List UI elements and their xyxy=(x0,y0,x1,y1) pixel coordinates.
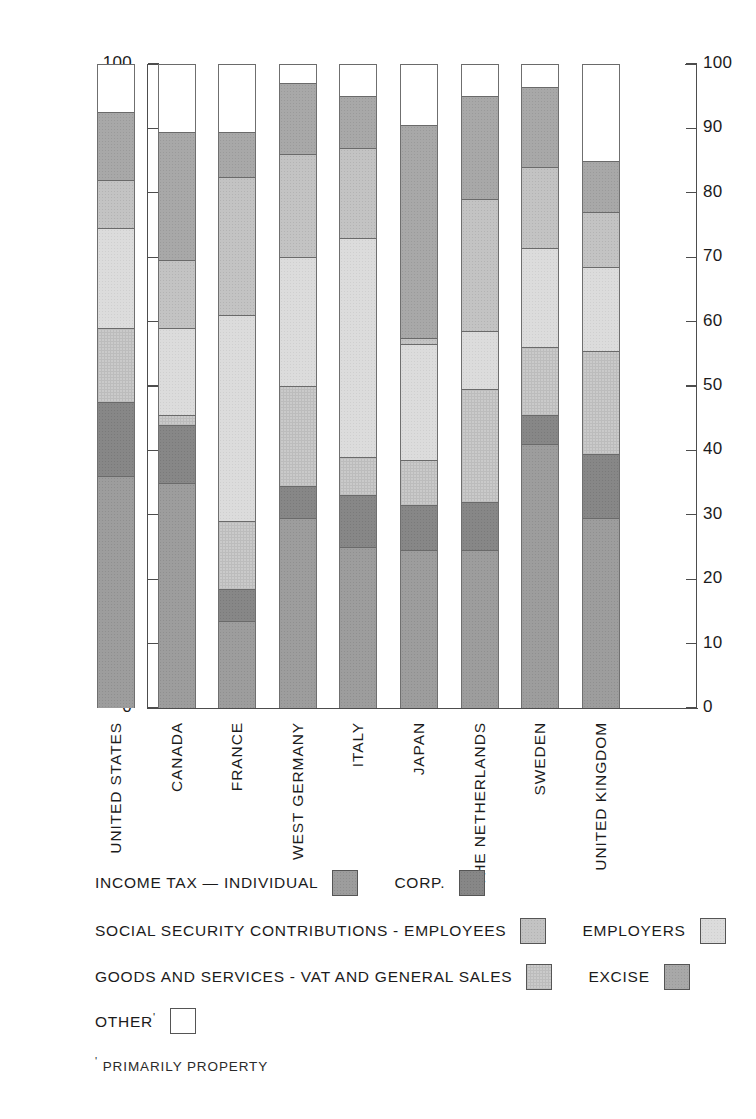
x-axis-label-japan: JAPAN xyxy=(410,722,428,775)
bar-segment-ss_employers xyxy=(98,228,134,328)
bar-segment-excise xyxy=(522,87,558,168)
bar-segment-corp xyxy=(219,589,255,621)
y-tick-right xyxy=(686,385,697,386)
bar-segment-other xyxy=(401,64,437,125)
legend-swatch-ss_employees[interactable] xyxy=(520,918,546,944)
bar-segment-ss_employees xyxy=(219,177,255,315)
bar-segment-vat xyxy=(340,457,376,496)
bar-segment-ss_employees xyxy=(401,338,437,344)
bar-segment-vat xyxy=(280,386,316,486)
y-tick-label-right: 80 xyxy=(703,182,749,202)
y-tick-label-right: 100 xyxy=(703,53,749,73)
legend-label-ss_employers: EMPLOYERS xyxy=(582,922,685,940)
legend-swatch-excise[interactable] xyxy=(664,964,690,990)
bar-segment-excise xyxy=(219,132,255,177)
x-axis-label-france: FRANCE xyxy=(228,722,246,791)
bar-segment-individual xyxy=(219,621,255,708)
bar-united-states[interactable] xyxy=(97,64,135,708)
bar-segment-ss_employees xyxy=(159,260,195,328)
bar-segment-vat xyxy=(98,328,134,402)
bar-segment-corp xyxy=(462,502,498,550)
legend-row-3: GOODS AND SERVICES - VAT AND GENERAL SAL… xyxy=(95,964,704,990)
bar-segment-vat xyxy=(219,521,255,589)
bar-sweden[interactable] xyxy=(521,64,559,708)
bar-segment-excise xyxy=(462,96,498,199)
y-tick-right xyxy=(686,450,697,451)
bar-west-germany[interactable] xyxy=(279,64,317,708)
bar-segment-other xyxy=(159,64,195,132)
bar-segment-other xyxy=(522,64,558,87)
footnote-text: PRIMARILY PROPERTY xyxy=(103,1059,269,1074)
x-axis-label-west-germany: WEST GERMANY xyxy=(289,722,307,860)
x-axis-label-sweden: SWEDEN xyxy=(531,722,549,795)
bar-segment-ss_employees xyxy=(98,180,134,228)
bar-segment-ss_employers xyxy=(522,248,558,348)
bar-segment-corp xyxy=(583,454,619,518)
bar-segment-ss_employees xyxy=(522,167,558,248)
x-axis-label-the-netherlands: THE NETHERLANDS xyxy=(471,722,489,886)
plot-area: 0102030405060708090100 01020304050607080… xyxy=(0,0,756,760)
bar-segment-individual xyxy=(280,518,316,708)
y-tick-right xyxy=(686,707,697,708)
y-tick-label-right: 70 xyxy=(703,246,749,266)
bar-segment-ss_employers xyxy=(340,238,376,457)
legend-label-corp: CORP. xyxy=(394,874,445,892)
x-axis-label-italy: ITALY xyxy=(349,722,367,767)
bar-segment-ss_employers xyxy=(401,344,437,460)
bar-italy[interactable] xyxy=(339,64,377,708)
x-axis-label-canada: CANADA xyxy=(168,722,186,792)
y-tick-label-right: 40 xyxy=(703,439,749,459)
legend-swatch-corp[interactable] xyxy=(459,870,485,896)
bar-segment-individual xyxy=(340,547,376,708)
bar-segment-ss_employers xyxy=(219,315,255,521)
legend-row-1: INCOME TAX — INDIVIDUALCORP. xyxy=(95,870,499,896)
bar-segment-individual xyxy=(159,483,195,708)
chart-footnote: ' PRIMARILY PROPERTY xyxy=(95,1055,268,1074)
bar-segment-ss_employees xyxy=(280,154,316,257)
legend-label-vat: GOODS AND SERVICES - VAT AND GENERAL SAL… xyxy=(95,968,512,986)
chart-page: 0102030405060708090100 01020304050607080… xyxy=(0,0,756,1119)
bar-segment-corp xyxy=(340,495,376,547)
other-footnote-mark: ' xyxy=(153,1011,156,1023)
bar-segment-individual xyxy=(522,444,558,708)
legend-label-other: OTHER' xyxy=(95,1011,156,1031)
y-tick-right xyxy=(686,257,697,258)
bar-segment-vat xyxy=(522,347,558,415)
bar-france[interactable] xyxy=(218,64,256,708)
x-axis-label-united-states: UNITED STATES xyxy=(107,722,125,854)
bar-segment-vat xyxy=(401,460,437,505)
bar-united-kingdom[interactable] xyxy=(582,64,620,708)
bar-segment-corp xyxy=(159,425,195,483)
y-tick-label-right: 90 xyxy=(703,117,749,137)
x-axis-label-united-kingdom: UNITED KINGDOM xyxy=(592,722,610,871)
legend-swatch-individual[interactable] xyxy=(332,870,358,896)
bar-segment-ss_employers xyxy=(462,331,498,389)
bar-segment-ss_employers xyxy=(583,267,619,351)
legend-item-other[interactable]: OTHER' xyxy=(95,1008,210,1034)
y-tick-right xyxy=(686,192,697,193)
bar-japan[interactable] xyxy=(400,64,438,708)
bar-segment-individual xyxy=(462,550,498,708)
legend-swatch-vat[interactable] xyxy=(526,964,552,990)
legend-row-2: SOCIAL SECURITY CONTRIBUTIONS - EMPLOYEE… xyxy=(95,918,740,944)
bar-segment-other xyxy=(462,64,498,96)
bar-segment-excise xyxy=(401,125,437,338)
bar-the-netherlands[interactable] xyxy=(461,64,499,708)
y-tick-label-right: 10 xyxy=(703,633,749,653)
bar-segment-excise xyxy=(280,83,316,154)
bar-segment-excise xyxy=(159,132,195,261)
bar-segment-other xyxy=(98,64,134,112)
legend-label-excise: EXCISE xyxy=(588,968,649,986)
bar-segment-ss_employers xyxy=(159,328,195,415)
y-tick-label-right: 30 xyxy=(703,504,749,524)
bar-segment-other xyxy=(340,64,376,96)
y-tick-right xyxy=(686,63,697,64)
bar-segment-ss_employers xyxy=(280,257,316,386)
bar-segment-other xyxy=(583,64,619,161)
y-tick-right xyxy=(686,579,697,580)
legend-swatch-ss_employers[interactable] xyxy=(700,918,726,944)
bar-canada[interactable] xyxy=(158,64,196,708)
y-tick-right xyxy=(686,128,697,129)
y-tick-label-right: 0 xyxy=(703,697,749,717)
legend-swatch-other xyxy=(170,1008,196,1034)
